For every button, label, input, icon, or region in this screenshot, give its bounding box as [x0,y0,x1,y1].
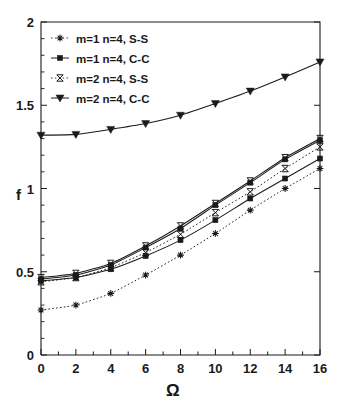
series-marker-1 [283,176,288,181]
series-marker-5 [248,180,253,185]
series-marker-1 [213,218,218,223]
series-marker-0 [177,252,184,259]
series-marker-5 [318,138,323,143]
y-tick-label: 1.5 [16,98,34,113]
x-tick-label: 6 [142,361,149,376]
x-tick-label: 16 [313,361,327,376]
series-marker-5 [39,277,44,282]
x-tick-label: 4 [107,361,115,376]
series-marker-0 [212,230,219,237]
series-marker-5 [143,245,148,250]
y-tick-label: 0 [27,348,34,363]
chart-figure: f Ω 024681012141600.511.52m=1 n=4, S-Sm=… [0,0,350,416]
legend-marker-0 [57,35,64,42]
x-tick-label: 2 [72,361,79,376]
series-marker-1 [248,196,253,201]
series-marker-0 [107,290,114,297]
x-tick-label: 10 [208,361,222,376]
legend-label-1: m=1 n=4, C-C [76,53,150,65]
y-tick-label: 1 [27,182,34,197]
series-marker-0 [72,302,79,309]
series-marker-5 [178,226,183,231]
series-marker-2 [177,231,183,237]
x-tick-label: 8 [177,361,184,376]
series-marker-0 [317,165,324,172]
y-tick-label: 2 [27,15,34,30]
series-line-1 [41,159,320,281]
series-marker-0 [38,307,45,314]
series-marker-2 [212,209,218,215]
legend-label-3: m=2 n=4, C-C [76,93,150,105]
x-tick-label: 12 [243,361,257,376]
legend-marker-1 [58,56,63,61]
plot-canvas: 024681012141600.511.52m=1 n=4, S-Sm=1 n=… [0,0,350,416]
y-tick-label: 0.5 [16,265,34,280]
series-marker-1 [178,238,183,243]
series-marker-0 [247,207,254,214]
legend-marker-2 [57,75,63,81]
series-marker-3 [281,74,289,81]
series-marker-5 [283,157,288,162]
series-marker-5 [73,273,78,278]
series-marker-3 [316,59,324,66]
series-marker-2 [282,165,288,171]
series-marker-1 [318,156,323,161]
series-line-2 [41,147,320,282]
series-marker-0 [282,185,289,192]
series-marker-5 [108,263,113,268]
series-marker-5 [213,203,218,208]
series-marker-2 [247,189,253,195]
legend-label-0: m=1 n=4, S-S [76,33,149,45]
x-tick-label: 0 [37,361,44,376]
x-tick-label: 14 [278,361,293,376]
legend-label-2: m=2 n=4, S-S [76,73,149,85]
series-marker-0 [142,272,149,279]
